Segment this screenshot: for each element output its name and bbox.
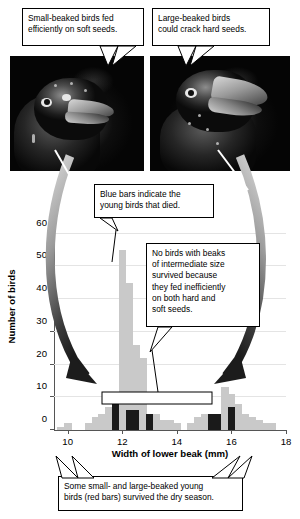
finch-eye xyxy=(188,90,194,96)
large-beak-callout: Large-beaked birds could crack hard seed… xyxy=(152,8,270,46)
intermediate-callout-line-6: soft seeds. xyxy=(152,304,254,315)
large-beak-callout-line-2: could crack hard seeds. xyxy=(158,24,264,35)
blue-callout-tail xyxy=(0,217,300,265)
x-axis-tick-label: 16 xyxy=(226,436,237,447)
plumage-speck xyxy=(206,128,209,131)
blue-bars-callout-line-1: Blue bars indicate the xyxy=(100,189,208,200)
red-bars-callout-tail xyxy=(0,452,300,482)
plumage-speck xyxy=(198,114,201,117)
y-axis-tick-label: 40 xyxy=(36,282,47,293)
plumage-speck xyxy=(188,122,191,125)
x-axis-tick-label: 10 xyxy=(62,436,73,447)
red-bars-callout-line-2: birds (red bars) survived the dry season… xyxy=(64,492,237,503)
x-axis-tick-label: 12 xyxy=(117,436,128,447)
small-beak-callout: Small-beaked birds fed efficiently on so… xyxy=(22,8,144,46)
finch-eye xyxy=(44,99,50,105)
intermediate-callout-line-5: on both hard and xyxy=(152,293,254,304)
intermediate-callout-line-3: survived because xyxy=(152,270,254,281)
small-beak-callout-line-2: efficiently on soft seeds. xyxy=(28,24,138,35)
small-beak-callout-line-1: Small-beaked birds fed xyxy=(28,13,138,24)
top-callout-tails xyxy=(0,44,300,74)
blue-bars-callout-line-2: young birds that died. xyxy=(100,200,208,211)
y-axis-tick xyxy=(50,298,54,299)
red-bars-callout-line-1: Some small- and large-beaked young xyxy=(64,481,237,492)
plumage-speck xyxy=(70,82,73,85)
large-beak-callout-line-1: Large-beaked birds xyxy=(158,13,264,24)
y-axis-tick xyxy=(50,265,54,266)
intermediate-callout-line-4: they fed inefficiently xyxy=(152,282,254,293)
blue-bars-callout: Blue bars indicate the young birds that … xyxy=(94,184,214,218)
plumage-speck xyxy=(84,89,87,92)
x-axis-tick-label: 14 xyxy=(171,436,182,447)
x-axis-tick-label: 18 xyxy=(281,436,292,447)
plumage-speck xyxy=(54,84,57,87)
y-axis-tick-label: 30 xyxy=(36,315,47,326)
intermediate-callout-tail xyxy=(0,326,300,431)
